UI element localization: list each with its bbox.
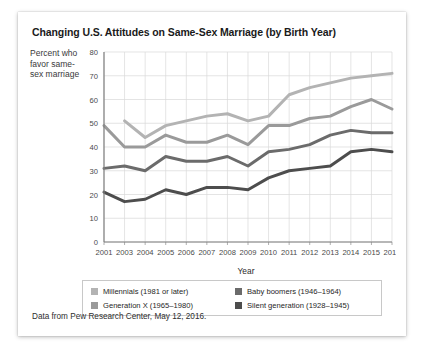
x-tick-label: 2009 xyxy=(240,248,257,257)
legend-column-right: Baby boomers (1946–1964) Silent generati… xyxy=(235,285,349,313)
x-tick-label: 2013 xyxy=(322,248,339,257)
y-tick-label: 80 xyxy=(90,48,98,57)
x-tick-label: 2010 xyxy=(260,248,277,257)
x-axis-title: Year xyxy=(238,266,255,276)
x-axis-ticks: 2001200320042005200620072008200920102011… xyxy=(96,248,396,257)
chart-legend: Millennials (1981 or later) Generation X… xyxy=(82,280,382,316)
x-tick-label: 2004 xyxy=(137,248,154,257)
legend-column-left: Millennials (1981 or later) Generation X… xyxy=(91,285,193,313)
legend-item-silent-generation: Silent generation (1928–1945) xyxy=(235,299,349,312)
y-tick-label: 70 xyxy=(90,72,98,81)
y-tick-label: 10 xyxy=(90,214,98,223)
y-tick-label: 30 xyxy=(90,167,98,176)
plot-area: 01020304050607080 2001200320042005200620… xyxy=(78,46,396,278)
legend-item-generation-x: Generation X (1965–1980) xyxy=(91,299,193,312)
x-tick-label: 2003 xyxy=(116,248,133,257)
y-tick-label: 50 xyxy=(90,119,98,128)
legend-swatch-generation-x-icon xyxy=(91,302,98,309)
legend-label-silent-generation: Silent generation (1928–1945) xyxy=(247,301,349,310)
legend-swatch-silent-generation-icon xyxy=(235,302,242,309)
source-note: Data from Pew Research Center, May 12, 2… xyxy=(32,312,206,321)
legend-label-generation-x: Generation X (1965–1980) xyxy=(103,301,193,310)
x-tick-label: 2014 xyxy=(342,248,359,257)
legend-item-baby-boomers: Baby boomers (1946–1964) xyxy=(235,285,349,298)
x-tick-label: 2005 xyxy=(157,248,174,257)
y-tick-label: 20 xyxy=(90,191,98,200)
x-tick-label: 2001 xyxy=(96,248,113,257)
y-tick-label: 40 xyxy=(90,143,98,152)
x-tick-label: 2015 xyxy=(363,248,380,257)
x-tick-label: 2006 xyxy=(178,248,195,257)
x-tick-label: 2008 xyxy=(219,248,236,257)
x-tick-label: 2016 xyxy=(384,248,396,257)
legend-label-baby-boomers: Baby boomers (1946–1964) xyxy=(247,287,341,296)
x-tick-label: 2012 xyxy=(301,248,318,257)
y-axis-caption: Percent who favor same-sex marriage xyxy=(30,48,84,80)
legend-item-millennials: Millennials (1981 or later) xyxy=(91,285,193,298)
y-tick-label: 60 xyxy=(90,96,98,105)
legend-swatch-millennials-icon xyxy=(91,288,98,295)
line-chart-svg: 01020304050607080 2001200320042005200620… xyxy=(78,46,396,278)
gridlines xyxy=(104,52,392,245)
legend-label-millennials: Millennials (1981 or later) xyxy=(103,287,188,296)
chart-card: Changing U.S. Attitudes on Same-Sex Marr… xyxy=(18,12,406,336)
x-tick-label: 2011 xyxy=(281,248,297,257)
y-axis-ticks: 01020304050607080 xyxy=(90,48,98,247)
x-tick-label: 2007 xyxy=(198,248,215,257)
legend-swatch-baby-boomers-icon xyxy=(235,288,242,295)
y-tick-label: 0 xyxy=(94,238,98,247)
page-title: Changing U.S. Attitudes on Same-Sex Marr… xyxy=(32,26,394,38)
